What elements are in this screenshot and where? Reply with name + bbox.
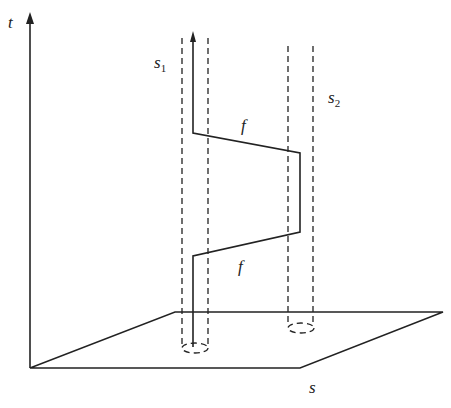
t-axis-arrow-icon (26, 12, 34, 24)
f-lower-label: f (238, 257, 245, 276)
t-axis (26, 12, 34, 368)
f-upper-label: f (241, 116, 248, 135)
s-plane (30, 312, 443, 368)
s1-tube (182, 38, 208, 353)
f-path (190, 31, 300, 347)
s-axis-label: s (309, 378, 316, 397)
s2-tube (288, 46, 314, 333)
s1-label: s1 (154, 53, 166, 74)
s2-label: s2 (328, 88, 340, 109)
f-path-arrow-icon (190, 31, 196, 42)
diagram-canvas: t s s1 s2 f f (0, 0, 451, 408)
t-axis-label: t (8, 13, 14, 32)
